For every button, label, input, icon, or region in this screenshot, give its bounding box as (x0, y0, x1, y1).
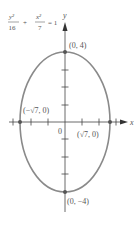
point-bottom (63, 190, 67, 194)
y-axis-label: y (62, 11, 67, 20)
eq-plus: + (23, 19, 27, 27)
point-top (63, 50, 67, 54)
eq-den2: 7 (38, 24, 42, 32)
label-left-vertex: (−√7, 0) (23, 106, 50, 115)
ellipse-diagram: y x 0 (0, 4) (0, −4) (−√7, 0) (√7, 0) y²… (0, 0, 140, 228)
eq-num2: x² (35, 13, 42, 21)
point-left (18, 120, 22, 124)
origin-label: 0 (58, 127, 62, 136)
eq-equals: = 1 (48, 19, 58, 27)
label-right-vertex: (√7, 0) (77, 130, 99, 139)
label-bottom-vertex: (0, −4) (67, 197, 89, 206)
eq-num1: y² (8, 13, 15, 21)
x-axis-label: x (129, 118, 134, 127)
y-axis-arrow-icon (63, 22, 68, 31)
ellipse-equation: y² 16 + x² 7 = 1 (8, 13, 58, 32)
label-top-vertex: (0, 4) (69, 41, 87, 50)
eq-den1: 16 (9, 24, 17, 32)
point-right (108, 120, 112, 124)
x-axis-arrow-icon (120, 120, 128, 125)
